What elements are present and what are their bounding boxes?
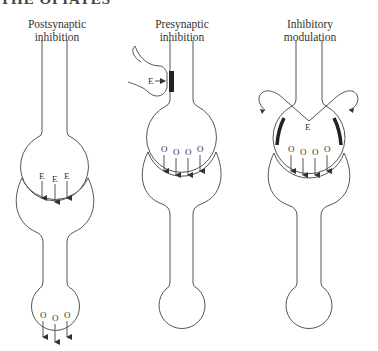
transmitter-label: O xyxy=(173,147,180,157)
transmitter-label: O xyxy=(300,147,307,157)
presynaptic-transmitter-label: E xyxy=(148,76,154,86)
panel-presynaptic: E O O O O xyxy=(128,40,221,329)
postsynaptic-cup-outline xyxy=(142,152,221,329)
output-label: O xyxy=(40,310,47,320)
presynaptic-neuron-outline xyxy=(273,40,345,174)
inhibitory-contact xyxy=(277,118,284,145)
transmitter-label: O xyxy=(161,144,168,154)
transmitter-label: O xyxy=(312,147,319,157)
modulator-fiber-left xyxy=(259,91,309,121)
modulator-fiber-right xyxy=(309,91,358,121)
output-label: O xyxy=(64,310,71,320)
inhibitory-contact xyxy=(334,118,341,145)
modulator-transmitter-label: E xyxy=(305,122,311,132)
panel-postsynaptic: E E E O O O xyxy=(16,40,94,342)
output-label: O xyxy=(52,313,59,323)
inhibitory-contact xyxy=(169,71,174,92)
postsynaptic-cup-outline xyxy=(268,153,350,329)
transmitter-label: O xyxy=(197,144,204,154)
presynaptic-neuron-outline xyxy=(147,40,217,172)
transmitter-label: E xyxy=(64,171,70,181)
transmitter-label: O xyxy=(288,144,295,154)
transmitter-label: E xyxy=(52,174,58,184)
synapse-diagram: E E E O O O E O O O O xyxy=(0,0,378,351)
panel-inhibitory-modulation: E O O O O xyxy=(259,40,358,329)
axoaxonic-terminal-outline xyxy=(128,46,167,96)
transmitter-label: O xyxy=(324,144,331,154)
transmitter-label: E xyxy=(39,171,45,181)
axoaxonic-terminal-outline xyxy=(133,46,141,62)
transmitter-label: O xyxy=(185,147,192,157)
